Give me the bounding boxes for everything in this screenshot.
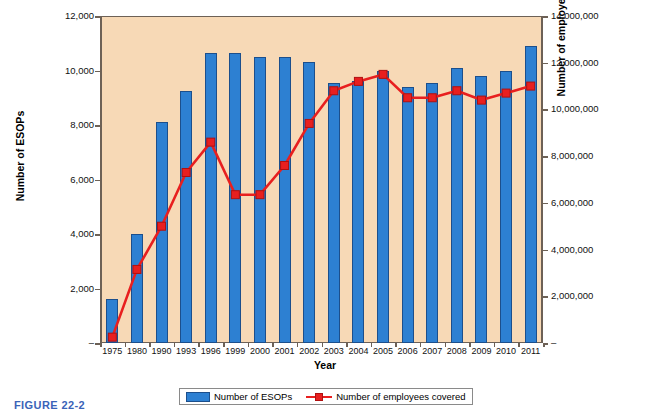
y-axis-left-tickmark [95,71,100,73]
y-axis-right-tickmark [543,109,548,111]
line-marker-1980 [133,265,141,273]
y-axis-right-tickmark [543,16,548,18]
y-axis-left-tick: 6,000 [42,174,94,185]
line-marker-2005 [379,70,387,78]
y-axis-left-tickmark [95,289,100,291]
x-axis-label: Year [0,359,650,371]
line-marker-2011 [527,82,535,90]
y-axis-right-tick: 6,000,000 [551,197,621,208]
y-axis-right-tick: 8,000,000 [551,150,621,161]
y-axis-left-tickmark [95,180,100,182]
line-marker-1993 [182,168,190,176]
x-axis-tickmark [198,343,200,347]
line-marker-2010 [502,89,510,97]
y-axis-right-tick: 4,000,000 [551,244,621,255]
x-axis-tickmark [272,343,274,347]
y-axis-left-label: Number of ESOPs [14,96,26,216]
bar-swatch-icon [186,392,210,402]
x-axis-tickmark [518,343,520,347]
y-axis-right-tickmark [543,63,548,65]
x-axis-tickmark [297,343,299,347]
y-axis-left-tick: 8,000 [42,119,94,130]
y-axis-left-tickmark [95,125,100,127]
x-axis-tickmark [543,343,545,347]
line-swatch-icon [306,392,332,402]
y-axis-left-tickmark [95,234,100,236]
line-marker-2000 [256,191,264,199]
y-axis-left-tickmark [95,16,100,18]
y-axis-right-tickmark [543,250,548,252]
x-axis-tickmark [174,343,176,347]
y-axis-right-tick: – [551,337,621,348]
figure-caption: FIGURE 22-2 [14,399,85,411]
line-marker-2004 [354,77,362,85]
legend-label-bars: Number of ESOPs [214,391,292,402]
x-axis-tickmark [494,343,496,347]
x-axis-tickmark [469,343,471,347]
line-marker-2008 [453,87,461,95]
line-marker-1999 [231,191,239,199]
line-series-layer [100,16,543,343]
legend-label-line: Number of employees covered [336,391,465,402]
employees-covered-line [112,74,530,337]
figure-root: –2,0004,0006,0008,00010,00012,000–2,000,… [0,0,650,411]
x-axis-tickmark [395,343,397,347]
line-marker-1975 [108,333,116,341]
line-marker-1990 [158,222,166,230]
line-marker-2001 [281,161,289,169]
y-axis-left-tick: 4,000 [42,228,94,239]
y-axis-left-tick: – [42,337,94,348]
x-axis-tickmark [100,343,102,347]
y-axis-right-tickmark [543,203,548,205]
line-marker-2009 [477,96,485,104]
x-axis-tickmark [223,343,225,347]
x-axis-tickmark [322,343,324,347]
line-marker-2007 [428,94,436,102]
x-axis-tickmark [248,343,250,347]
x-axis-tickmark [149,343,151,347]
chart-legend: Number of ESOPs Number of employees cove… [179,388,473,405]
legend-entry-bars[interactable]: Number of ESOPs [186,391,292,402]
line-marker-2002 [305,119,313,127]
line-marker-2003 [330,87,338,95]
x-axis-tickmark [371,343,373,347]
x-axis-tickmark [346,343,348,347]
y-axis-right-tickmark [543,156,548,158]
y-axis-left-tick: 2,000 [42,283,94,294]
x-axis-tickmark [125,343,127,347]
y-axis-left-tick: 12,000 [42,10,94,21]
line-marker-2006 [404,94,412,102]
y-axis-left-tick: 10,000 [42,65,94,76]
x-axis-tickmark [445,343,447,347]
plot-area [100,16,543,343]
legend-entry-line[interactable]: Number of employees covered [306,391,465,402]
y-axis-right-tick: 2,000,000 [551,290,621,301]
x-axis-tickmark [420,343,422,347]
x-axis-tick-2011: 2011 [514,346,548,356]
y-axis-right-label: Number of employees covered [555,0,567,115]
y-axis-right-tickmark [543,296,548,298]
line-marker-1996 [207,138,215,146]
